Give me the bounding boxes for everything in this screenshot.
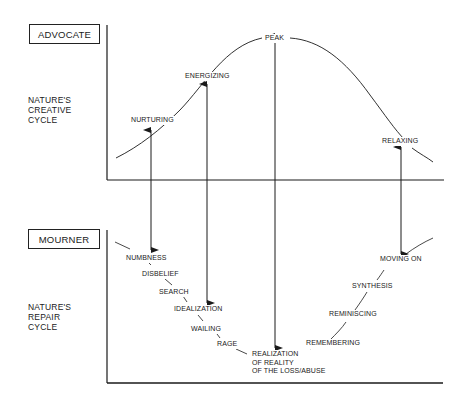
repair-label-line: REPAIR xyxy=(28,312,71,322)
creative-label-line: NATURE'S xyxy=(28,95,71,105)
stage-energizing: ENERGIZING xyxy=(184,72,231,81)
realization-line: OF THE LOSS/ABUSE xyxy=(252,367,326,376)
diagram-canvas: ADVOCATE MOURNER NATURE'S CREATIVE CYCLE… xyxy=(0,0,468,417)
stage-moving-on: MOVING ON xyxy=(379,255,423,264)
stage-disbelief: DISBELIEF xyxy=(141,270,180,279)
repair-cycle-label: NATURE'S REPAIR CYCLE xyxy=(28,302,71,332)
stage-relaxing: RELAXING xyxy=(381,137,419,146)
repair-label-line: NATURE'S xyxy=(28,302,71,312)
realization-line: OF REALITY xyxy=(252,359,326,368)
stage-search: SEARCH xyxy=(158,288,190,297)
mourner-box: MOURNER xyxy=(28,229,100,249)
stage-rage: RAGE xyxy=(216,340,238,349)
stage-realization: REALIZATION OF REALITY OF THE LOSS/ABUSE xyxy=(251,350,327,376)
creative-cycle-label: NATURE'S CREATIVE CYCLE xyxy=(28,95,71,125)
creative-label-line: CYCLE xyxy=(28,115,71,125)
stage-reminiscing: REMINISCING xyxy=(328,310,378,319)
stage-numbness: NUMBNESS xyxy=(125,254,167,263)
diagram-lines xyxy=(0,0,468,417)
stage-idealization: IDEALIZATION xyxy=(173,305,224,314)
creative-label-line: CREATIVE xyxy=(28,105,71,115)
repair-label-line: CYCLE xyxy=(28,322,71,332)
stage-peak: PEAK xyxy=(264,34,285,43)
stage-synthesis: SYNTHESIS xyxy=(351,282,394,291)
advocate-box: ADVOCATE xyxy=(29,24,100,44)
stage-remembering: REMEMBERING xyxy=(305,339,361,348)
stage-nurturing: NURTURING xyxy=(130,116,175,125)
stage-wailing: WAILING xyxy=(190,325,222,334)
realization-line: REALIZATION xyxy=(252,350,326,359)
